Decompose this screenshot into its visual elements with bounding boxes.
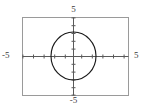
x-axis-max-label: 5 <box>134 51 139 60</box>
y-axis-max-label: 5 <box>0 5 147 14</box>
coordinate-plane-graph <box>0 0 147 110</box>
x-axis-min-label: -5 <box>2 51 10 60</box>
y-axis-min-label: -5 <box>0 96 147 105</box>
graph-viewport: 5 -5 -5 5 <box>0 0 147 110</box>
